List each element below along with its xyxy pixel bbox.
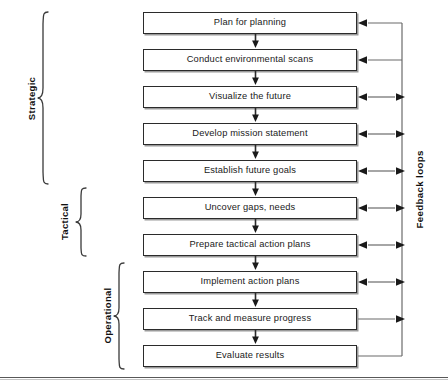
process-label-10: Evaluate results	[216, 351, 285, 360]
group-label-operational: Operational	[102, 277, 113, 355]
flow-arrow-icon-8-9	[249, 293, 262, 307]
flowchart-diagram: Strategic Tactical Operational Plan for …	[0, 0, 448, 384]
flow-arrow-icon-6-7	[249, 219, 262, 233]
group-label-strategic: Strategic	[26, 64, 37, 134]
flow-arrow-icon-1-2	[249, 34, 262, 48]
process-label-4: Develop mission statement	[192, 129, 307, 138]
process-label-8: Implement action plans	[201, 277, 300, 286]
process-box-8[interactable]: Implement action plans	[143, 271, 357, 293]
process-box-1[interactable]: Plan for planning	[143, 12, 357, 34]
flow-arrow-icon-2-3	[249, 71, 262, 85]
flow-arrow-icon-5-6	[249, 182, 262, 196]
brace-tactical	[74, 186, 88, 258]
process-label-5: Establish future goals	[204, 166, 296, 175]
process-label-3: Visualize the future	[209, 92, 291, 101]
process-box-7[interactable]: Prepare tactical action plans	[143, 234, 357, 256]
flow-arrow-icon-3-4	[249, 108, 262, 122]
process-label-2: Conduct environmental scans	[187, 55, 314, 64]
process-box-4[interactable]: Develop mission statement	[143, 123, 357, 145]
process-label-9: Track and measure progress	[189, 314, 311, 323]
brace-strategic	[36, 10, 50, 186]
process-box-10[interactable]: Evaluate results	[143, 345, 357, 367]
process-label-7: Prepare tactical action plans	[189, 240, 310, 249]
flow-arrow-icon-9-10	[249, 330, 262, 344]
flow-arrow-icon-7-8	[249, 256, 262, 270]
process-box-2[interactable]: Conduct environmental scans	[143, 49, 357, 71]
process-box-3[interactable]: Visualize the future	[143, 86, 357, 108]
group-label-tactical: Tactical	[59, 191, 70, 253]
process-box-6[interactable]: Uncover gaps, needs	[143, 197, 357, 219]
bottom-divider-shadow	[0, 379, 448, 380]
feedback-loop-bus	[355, 0, 410, 384]
process-box-9[interactable]: Track and measure progress	[143, 308, 357, 330]
process-label-1: Plan for planning	[214, 18, 286, 27]
brace-operational	[112, 261, 126, 371]
flow-arrow-icon-4-5	[249, 145, 262, 159]
process-label-6: Uncover gaps, needs	[205, 203, 296, 212]
bottom-divider	[0, 377, 448, 378]
feedback-loops-label: Feedback loops	[414, 153, 425, 229]
process-box-5[interactable]: Establish future goals	[143, 160, 357, 182]
